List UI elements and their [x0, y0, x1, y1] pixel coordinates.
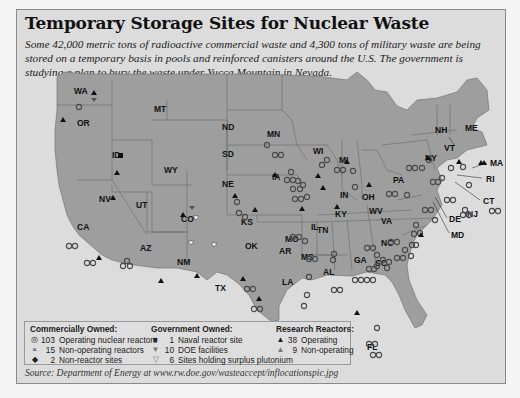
- label-TN: TN: [317, 225, 328, 235]
- legend-item: ×15Non-operating reactors: [30, 345, 157, 355]
- label-CT: CT: [483, 196, 495, 206]
- down-triangle-icon: ▼: [151, 345, 160, 355]
- label-KY: KY: [335, 209, 347, 219]
- source-note: Source: Department of Energy at www.rw.d…: [25, 368, 338, 378]
- label-SD: SD: [222, 149, 234, 159]
- label-WV: WV: [369, 206, 383, 216]
- legend-item: ◆2Non-reactor sites: [30, 355, 157, 365]
- us-land: [55, 72, 489, 328]
- legend-item: ■1Naval reactor site: [151, 335, 293, 345]
- figure-frame: Temporary Storage Sites for Nuclear Wast…: [16, 9, 506, 384]
- label-OK: OK: [245, 241, 259, 251]
- legend-government: Government Owned: ■1Naval reactor site ▼…: [151, 324, 293, 365]
- label-NM: NM: [177, 257, 190, 267]
- legend-item: ▽6Sites holding surplus plutonium: [151, 355, 293, 365]
- label-MA: MA: [490, 158, 503, 168]
- label-IN: IN: [340, 190, 349, 200]
- label-UT: UT: [136, 200, 148, 210]
- label-AR: AR: [279, 246, 291, 256]
- diamond-icon: ◆: [30, 355, 39, 365]
- label-GA: GA: [354, 255, 367, 265]
- label-TX: TX: [215, 283, 226, 293]
- legend-item: ▲38Operating: [276, 335, 354, 345]
- x-icon: ×: [30, 345, 39, 355]
- label-NE: NE: [222, 179, 234, 189]
- label-WA: WA: [74, 86, 88, 96]
- label-LA: LA: [282, 277, 293, 287]
- label-OR: OR: [77, 118, 90, 128]
- ring-icon: ◎: [30, 335, 39, 345]
- label-MT: MT: [154, 104, 167, 114]
- legend-item: ▼10DOE facilities: [151, 345, 293, 355]
- label-OH: OH: [362, 192, 375, 202]
- label-CA: CA: [77, 222, 89, 232]
- label-WY: WY: [164, 165, 178, 175]
- naval-reactor-site: [118, 153, 123, 158]
- open-down-triangle-icon: ▽: [151, 355, 160, 365]
- label-PA: PA: [393, 175, 404, 185]
- triangle-icon: ▲: [276, 335, 285, 345]
- label-ME: ME: [465, 123, 478, 133]
- label-NH: NH: [435, 125, 447, 135]
- square-icon: ■: [151, 335, 160, 345]
- grey-triangle-icon: ▲: [276, 345, 285, 355]
- label-DE: DE: [449, 214, 461, 224]
- legend-item: ▲9Non-operating: [276, 345, 354, 355]
- legend-item: ◎103Operating nuclear reactors: [30, 335, 157, 345]
- label-MN: MN: [267, 129, 280, 139]
- label-AL: AL: [323, 267, 334, 277]
- label-WI: WI: [313, 146, 323, 156]
- legend-research: Research Reactors: ▲38Operating ▲9Non-op…: [276, 324, 354, 355]
- map-legend: Commercially Owned: ◎103Operating nuclea…: [24, 321, 351, 365]
- label-MD: MD: [451, 230, 464, 240]
- legend-commercial: Commercially Owned: ◎103Operating nuclea…: [30, 324, 157, 365]
- label-VA: VA: [381, 216, 392, 226]
- label-NV: NV: [99, 194, 111, 204]
- label-AZ: AZ: [140, 243, 151, 253]
- label-ND: ND: [222, 122, 234, 132]
- label-RI: RI: [486, 174, 495, 184]
